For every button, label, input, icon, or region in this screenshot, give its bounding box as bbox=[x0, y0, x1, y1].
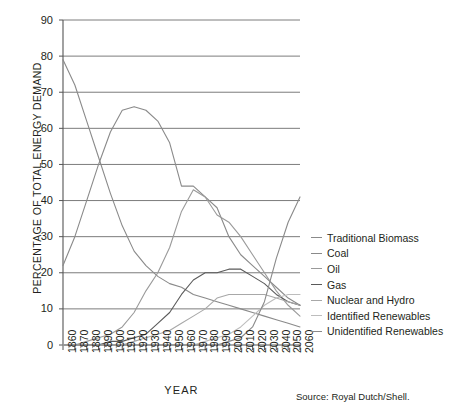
y-tick-label: 70 bbox=[27, 87, 53, 98]
legend-label: Nuclear and Hydro bbox=[327, 294, 415, 306]
x-tick-label: 1880 bbox=[91, 330, 102, 353]
x-tick-label: 1860 bbox=[67, 330, 78, 353]
legend-line-icon bbox=[311, 253, 322, 254]
chart-figure: PERCENTAGE OF TOTAL ENERGY DEMAND YEAR 0… bbox=[0, 0, 457, 411]
legend-label: Oil bbox=[327, 263, 340, 275]
legend-item: Identified Renewables bbox=[311, 308, 443, 324]
x-tick-label: 1980 bbox=[209, 330, 220, 353]
legend-label: Coal bbox=[327, 247, 349, 259]
x-tick-label: 1960 bbox=[186, 330, 197, 353]
legend-item: Nuclear and Hydro bbox=[311, 292, 443, 308]
legend-line-icon bbox=[311, 284, 322, 285]
x-tick-label: 1970 bbox=[198, 330, 209, 353]
x-tick-label: 1930 bbox=[150, 330, 161, 353]
legend-item: Coal bbox=[311, 246, 443, 262]
legend-line-icon bbox=[311, 300, 322, 301]
x-tick-label: 2020 bbox=[257, 330, 268, 353]
x-tick-label: 1950 bbox=[174, 330, 185, 353]
y-tick-label: 10 bbox=[27, 303, 53, 314]
legend-item: Gas bbox=[311, 277, 443, 293]
y-axis-ticks bbox=[59, 20, 63, 345]
x-tick-label: 1940 bbox=[162, 330, 173, 353]
legend-item: Oil bbox=[311, 261, 443, 277]
y-tick-label: 50 bbox=[27, 159, 53, 170]
x-tick-label: 2030 bbox=[269, 330, 280, 353]
legend-item: Traditional Biomass bbox=[311, 230, 443, 246]
legend-label: Identified Renewables bbox=[327, 310, 430, 322]
y-tick-label: 0 bbox=[27, 340, 53, 351]
x-tick-label: 1990 bbox=[221, 330, 232, 353]
legend: Traditional BiomassCoalOilGasNuclear and… bbox=[311, 230, 443, 339]
y-tick-label: 40 bbox=[27, 195, 53, 206]
series-lines bbox=[63, 60, 300, 345]
x-tick-label: 1900 bbox=[115, 330, 126, 353]
legend-line-icon bbox=[311, 315, 322, 316]
y-tick-label: 80 bbox=[27, 51, 53, 62]
legend-line-icon bbox=[311, 237, 322, 238]
x-tick-label: 2000 bbox=[233, 330, 244, 353]
y-tick-label: 90 bbox=[27, 15, 53, 26]
legend-label: Unidentified Renewables bbox=[327, 325, 443, 337]
legend-item: Unidentified Renewables bbox=[311, 324, 443, 340]
legend-label: Gas bbox=[327, 279, 346, 291]
source-note: Source: Royal Dutch/Shell. bbox=[296, 391, 410, 402]
legend-line-icon bbox=[311, 331, 322, 332]
x-tick-label: 1890 bbox=[103, 330, 114, 353]
legend-line-icon bbox=[311, 268, 322, 269]
legend-label: Traditional Biomass bbox=[327, 232, 419, 244]
x-tick-label: 1920 bbox=[138, 330, 149, 353]
x-tick-label: 1910 bbox=[126, 330, 137, 353]
y-tick-label: 60 bbox=[27, 123, 53, 134]
x-tick-label: 2010 bbox=[245, 330, 256, 353]
x-tick-label: 1870 bbox=[79, 330, 90, 353]
x-tick-label: 2040 bbox=[281, 330, 292, 353]
y-tick-label: 30 bbox=[27, 231, 53, 242]
y-tick-label: 20 bbox=[27, 267, 53, 278]
x-tick-label: 2050 bbox=[292, 330, 303, 353]
